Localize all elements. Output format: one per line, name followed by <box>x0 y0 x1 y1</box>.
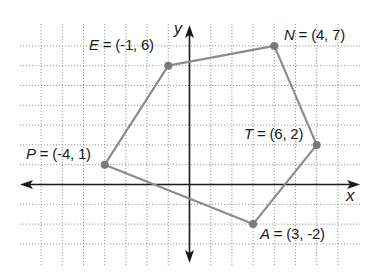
point-label-T: T = (6, 2) <box>244 125 303 142</box>
point-label-A: A = (3, -2) <box>260 225 325 242</box>
point-label-P: P = (-4, 1) <box>26 145 91 162</box>
point-label-N: N = (4, 7) <box>284 26 345 43</box>
vertex-A <box>249 220 257 228</box>
clipped-title-text <box>0 0 372 3</box>
vertex-T <box>313 141 321 149</box>
y-axis-label: y <box>174 20 182 38</box>
coordinate-plane: y x E = (-1, 6) N = (4, 7) T = (6, 2) A … <box>0 0 372 279</box>
point-label-E: E = (-1, 6) <box>89 36 154 53</box>
x-axis-label: x <box>346 186 354 206</box>
vertex-N <box>270 42 278 50</box>
vertex-P <box>101 161 109 169</box>
vertex-E <box>164 62 172 70</box>
